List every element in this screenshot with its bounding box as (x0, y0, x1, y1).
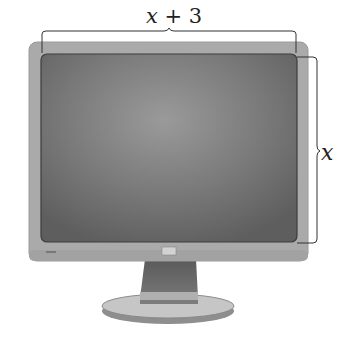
model-label (46, 251, 56, 253)
screen (41, 54, 297, 242)
height-label: x (321, 140, 333, 165)
monitor-illustration (0, 0, 340, 346)
monitor-diagram: x + 3 x (0, 0, 340, 346)
stand-neck (140, 259, 198, 304)
brand-logo (162, 247, 176, 255)
width-label: x + 3 (146, 4, 202, 28)
